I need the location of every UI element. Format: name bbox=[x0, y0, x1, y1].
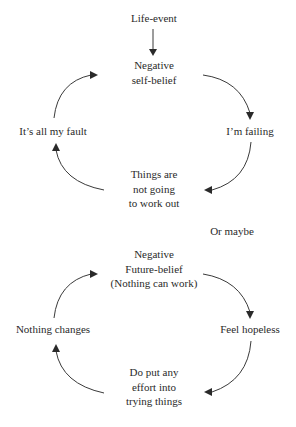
node-line: (Nothing can work) bbox=[111, 276, 198, 291]
node-things-are-not-going-to-work-out: Things are not going to work out bbox=[129, 167, 180, 211]
node-nothing-changes: Nothing changes bbox=[16, 322, 90, 337]
node-line: to work out bbox=[129, 196, 180, 211]
node-line: Negative bbox=[111, 247, 198, 262]
node-line: Future-belief bbox=[111, 262, 198, 277]
node-its-all-my-fault: It’s all my fault bbox=[19, 124, 87, 139]
node-line: trying things bbox=[126, 394, 182, 409]
node-im-failing: I’m failing bbox=[226, 124, 273, 139]
node-line: self-belief bbox=[132, 73, 177, 88]
node-line: Negative bbox=[132, 58, 177, 73]
arrowhead-up-icon bbox=[52, 143, 60, 151]
arrowhead-down-icon bbox=[246, 311, 254, 319]
node-feel-hopeless: Feel hopeless bbox=[220, 322, 280, 337]
node-line: Do put any bbox=[126, 365, 182, 380]
trigger-life-event: Life-event bbox=[131, 11, 177, 26]
arrowhead-right-icon bbox=[90, 71, 98, 79]
node-line: not going bbox=[129, 182, 180, 197]
trigger-arrowhead-icon bbox=[149, 49, 157, 56]
arrowhead-down-icon bbox=[246, 112, 254, 120]
node-do-put-any-effort: Do put any effort into trying things bbox=[126, 365, 182, 409]
node-line: Things are bbox=[129, 167, 180, 182]
node-negative-future-belief: Negative Future-belief (Nothing can work… bbox=[111, 247, 198, 291]
arrowhead-right-icon bbox=[90, 270, 98, 278]
arrowhead-left-icon bbox=[204, 186, 212, 194]
separator-or-maybe: Or maybe bbox=[210, 224, 254, 239]
arrowhead-up-icon bbox=[52, 344, 60, 352]
node-negative-self-belief: Negative self-belief bbox=[132, 58, 177, 87]
node-line: effort into bbox=[126, 380, 182, 395]
arrowhead-left-icon bbox=[204, 388, 212, 396]
